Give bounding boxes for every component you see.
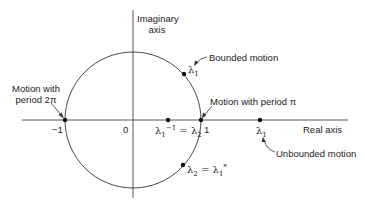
unbounded-motion-label: Unbounded motion bbox=[276, 148, 356, 159]
period-2pi-line2: period 2π bbox=[8, 94, 64, 105]
equals-lambda: = λ bbox=[176, 125, 197, 136]
point-minus-one bbox=[63, 118, 67, 122]
point-lambda-upper bbox=[182, 72, 186, 76]
subscript: 1 bbox=[161, 131, 165, 139]
period-pi-label: Motion with period π bbox=[210, 96, 296, 107]
tick-minus-one: −1 bbox=[52, 124, 63, 135]
subscript: 1 bbox=[219, 170, 223, 178]
point-lambda-inverse bbox=[166, 118, 170, 122]
point-lambda-lower bbox=[181, 163, 185, 167]
subscript: 1 bbox=[194, 70, 198, 78]
equals-lambda: = λ bbox=[198, 164, 219, 175]
point-one bbox=[199, 118, 203, 122]
bounded-motion-label: Bounded motion bbox=[209, 52, 278, 63]
lambda-inverse-label: λ1−1 = λ2 bbox=[155, 125, 202, 136]
subscript: 1 bbox=[262, 131, 266, 139]
period-2pi-line1: Motion with bbox=[8, 83, 64, 94]
lambda-outer-label: λ1 bbox=[256, 125, 267, 136]
conjugate-star: * bbox=[223, 163, 227, 171]
tick-zero: 0 bbox=[123, 124, 128, 135]
unit-circle-diagram: Imaginary axis Real axis −1 0 1 Bounded … bbox=[0, 0, 365, 208]
imaginary-label-line1: Imaginary bbox=[137, 13, 177, 24]
real-axis-label: Real axis bbox=[303, 124, 342, 135]
imaginary-label-line2: axis bbox=[137, 24, 177, 35]
point-lambda-outer bbox=[258, 118, 262, 122]
period-2pi-label: Motion with period 2π bbox=[8, 83, 64, 105]
lambda-lower-label: λ2 = λ1* bbox=[187, 164, 227, 175]
subscript: 2 bbox=[197, 131, 201, 139]
tick-one: 1 bbox=[204, 124, 209, 135]
superscript: −1 bbox=[166, 124, 176, 132]
arrowhead-icon bbox=[59, 113, 65, 119]
lambda-upper-label: λ1 bbox=[188, 64, 199, 75]
imaginary-axis-label: Imaginary axis bbox=[137, 13, 177, 35]
